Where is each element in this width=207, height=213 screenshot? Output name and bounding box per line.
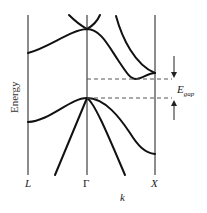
x-axis-label: k — [120, 191, 126, 203]
gap-arrow-up-head — [171, 100, 177, 106]
l-point-label: L — [24, 177, 31, 189]
valence-band-right-steep — [87, 98, 125, 175]
conduction-band-upper-right — [87, 15, 100, 29]
gap-arrow-down-head — [171, 72, 177, 78]
conduction-band-upper-left — [69, 15, 87, 29]
y-axis-label: Energy — [8, 81, 20, 113]
x-point-label: X — [150, 177, 159, 189]
gap-label: Egap — [176, 83, 195, 98]
conduction-band-main — [28, 29, 155, 79]
gamma-point-label: Γ — [83, 177, 89, 189]
band-structure-diagram: Egap L Γ X k Energy — [0, 0, 207, 213]
valence-band-top — [28, 98, 155, 154]
